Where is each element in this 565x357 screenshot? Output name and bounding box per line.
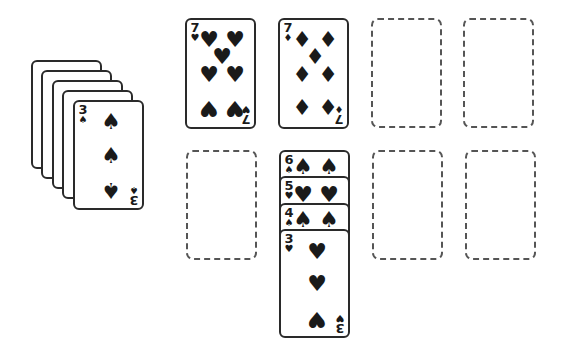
foundation-3-empty-slot[interactable] [371, 18, 442, 128]
diamond-icon: ♦ [334, 104, 344, 114]
card-index-top: 3 ♠ [78, 103, 88, 125]
diamond-icon: ♦ [318, 64, 338, 86]
heart-icon: ♥ [284, 244, 294, 254]
tableau-1-empty-slot[interactable] [186, 150, 257, 260]
tableau-4-empty-slot[interactable] [465, 150, 536, 260]
stock-top-card-3-spades[interactable]: 3 ♠ ♠ ♠ ♠ 3 ♠ [73, 100, 144, 210]
spade-icon: ♠ [319, 156, 339, 178]
tableau-card-3-hearts[interactable]: 3 ♥ ♥ ♥ ♥ 3 ♥ [279, 229, 350, 338]
spade-icon: ♠ [101, 179, 121, 201]
spade-icon: ♠ [78, 115, 88, 125]
heart-icon: ♥ [241, 104, 251, 114]
spade-icon: ♠ [129, 185, 139, 195]
spade-icon: ♠ [319, 209, 339, 231]
heart-icon: ♥ [199, 97, 219, 119]
spade-icon: ♠ [101, 111, 121, 133]
heart-icon: ♥ [307, 308, 327, 330]
foundation-1-7-hearts[interactable]: 7 ♥ ♥ ♥ ♥ ♥ ♥ ♥ ♥ 7 ♥ [185, 18, 256, 129]
diamond-icon: ♦ [292, 64, 312, 86]
card-index-bottom: 7 ♦ [334, 104, 344, 126]
heart-icon: ♥ [225, 64, 245, 86]
spade-icon: ♠ [293, 209, 313, 231]
heart-icon: ♥ [307, 241, 327, 263]
heart-icon: ♥ [199, 64, 219, 86]
card-index-bottom: 7 ♥ [241, 104, 251, 126]
card-index-top: 3 ♥ [284, 232, 294, 254]
diamond-icon: ♦ [292, 97, 312, 119]
spade-icon: ♠ [101, 145, 121, 167]
card-index-bottom: 3 ♠ [129, 185, 139, 207]
foundation-2-7-diamonds[interactable]: 7 ♦ ♦ ♦ ♦ ♦ ♦ ♦ ♦ 7 ♦ [278, 18, 349, 129]
foundation-4-empty-slot[interactable] [463, 18, 534, 128]
tableau-3-empty-slot[interactable] [372, 150, 443, 260]
card-index-bottom: 3 ♥ [335, 313, 345, 335]
heart-icon: ♥ [307, 273, 327, 295]
spade-icon: ♠ [293, 156, 313, 178]
heart-icon: ♥ [335, 313, 345, 323]
